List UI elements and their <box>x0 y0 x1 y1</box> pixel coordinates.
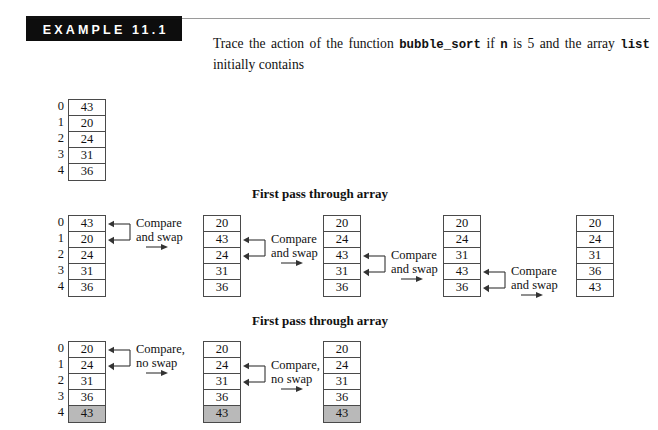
variable-list: list <box>620 38 650 52</box>
array-cell-4: 36 <box>444 280 480 296</box>
array-cell-2: 43 <box>324 248 360 264</box>
compare-bracket-icon <box>243 365 269 385</box>
array-box: 2024313643 <box>203 341 241 423</box>
next-step-arrow-icon <box>401 275 425 283</box>
description-suffix: initially contains <box>213 57 304 72</box>
next-step-arrow-icon <box>146 243 170 251</box>
array-box: 2043243136 <box>203 215 241 297</box>
array-cell-3: 36 <box>577 264 613 280</box>
array-block-pass1-step5: 2024313643 <box>576 215 614 297</box>
array-cell-4: 36 <box>204 280 240 296</box>
array-cell-3: 31 <box>204 264 240 280</box>
array-cell-2: 31 <box>444 248 480 264</box>
array-cell-4: 36 <box>69 164 105 180</box>
array-index-3: 3 <box>51 389 64 405</box>
array-cell-4: 43 <box>69 406 105 422</box>
array-cell-2: 24 <box>69 248 105 264</box>
array-box: 2024313643 <box>323 341 361 423</box>
array-block-pass2-step3: 2024313643 <box>323 341 361 423</box>
array-index-1: 1 <box>51 231 64 247</box>
array-cell-0: 20 <box>324 216 360 232</box>
compare-bracket-icon <box>483 271 509 291</box>
example-description: Trace the action of the function bubble_… <box>213 34 650 74</box>
array-index-2: 2 <box>51 247 64 263</box>
array-cell-1: 24 <box>324 232 360 248</box>
array-index-2: 2 <box>51 131 64 147</box>
array-cell-1: 20 <box>69 232 105 248</box>
array-cell-1: 24 <box>69 358 105 374</box>
next-step-arrow-icon <box>146 369 170 377</box>
array-cell-3: 43 <box>444 264 480 280</box>
array-cell-4: 36 <box>69 280 105 296</box>
array-cell-4: 43 <box>577 280 613 296</box>
pass-heading-pass1: First pass through array <box>252 186 388 202</box>
array-cell-4: 43 <box>324 406 360 422</box>
array-index-column: 01234 <box>51 99 64 179</box>
pass-heading-pass2: First pass through array <box>252 313 388 329</box>
array-cell-0: 20 <box>204 216 240 232</box>
compare-annotation-line1: Compare, <box>271 358 329 372</box>
compare-bracket-icon <box>243 239 269 259</box>
array-cell-1: 24 <box>444 232 480 248</box>
array-box: 2024313643 <box>68 341 106 423</box>
array-index-column: 01234 <box>51 341 64 421</box>
array-cell-0: 43 <box>69 100 105 116</box>
array-index-3: 3 <box>51 263 64 279</box>
array-index-1: 1 <box>51 357 64 373</box>
compare-annotation-line2: and swap <box>136 230 194 244</box>
array-cell-2: 31 <box>577 248 613 264</box>
example-badge: EXAMPLE 11.1 <box>26 19 182 41</box>
next-step-arrow-icon <box>281 385 305 393</box>
array-index-4: 4 <box>51 405 64 421</box>
array-cell-2: 31 <box>204 374 240 390</box>
array-block-pass2-step2: 2024313643 <box>203 341 241 423</box>
compare-bracket-icon <box>108 349 134 369</box>
array-cell-2: 24 <box>204 248 240 264</box>
array-block-pass2-step1: 012342024313643 <box>68 341 106 423</box>
array-index-4: 4 <box>51 163 64 179</box>
array-cell-3: 31 <box>69 148 105 164</box>
compare-bracket-icon <box>108 223 134 243</box>
array-index-1: 1 <box>51 115 64 131</box>
array-index-column: 01234 <box>51 215 64 295</box>
array-index-2: 2 <box>51 373 64 389</box>
example-badge-label: EXAMPLE 11.1 <box>39 23 168 37</box>
array-cell-0: 43 <box>69 216 105 232</box>
array-cell-0: 20 <box>69 342 105 358</box>
array-box: 2024314336 <box>443 215 481 297</box>
array-index-0: 0 <box>51 341 64 357</box>
compare-annotation-line2: no swap <box>271 372 329 386</box>
array-cell-0: 20 <box>324 342 360 358</box>
array-index-4: 4 <box>51 279 64 295</box>
array-box: 4320243136 <box>68 215 106 297</box>
array-cell-4: 43 <box>204 406 240 422</box>
array-cell-2: 31 <box>324 374 360 390</box>
compare-annotation-line2: and swap <box>271 246 329 260</box>
compare-annotation-line1: Compare <box>271 232 329 246</box>
next-step-arrow-icon <box>521 291 545 299</box>
variable-n: n <box>500 38 507 52</box>
compare-annotation-line1: Compare <box>391 248 449 262</box>
next-step-arrow-icon <box>281 259 305 267</box>
array-block-pass1-step4: 2024314336 <box>443 215 481 297</box>
array-cell-3: 36 <box>204 390 240 406</box>
array-cell-0: 20 <box>444 216 480 232</box>
array-block-pass1-step1: 012344320243136 <box>68 215 106 297</box>
compare-annotation-label: Compareand swap <box>271 232 329 260</box>
array-index-3: 3 <box>51 147 64 163</box>
compare-annotation-line1: Compare <box>136 216 194 230</box>
array-block-initial: 012344320243136 <box>68 99 106 181</box>
array-cell-3: 36 <box>69 390 105 406</box>
compare-annotation-label: Compare,no swap <box>136 342 194 370</box>
array-box: 2024433136 <box>323 215 361 297</box>
compare-annotation-label: Compareand swap <box>391 248 449 276</box>
array-box: 2024313643 <box>576 215 614 297</box>
compare-annotation-line2: no swap <box>136 356 194 370</box>
array-cell-0: 20 <box>577 216 613 232</box>
array-cell-3: 36 <box>324 390 360 406</box>
array-index-0: 0 <box>51 99 64 115</box>
compare-bracket-icon <box>363 255 389 275</box>
description-prefix: Trace the action of the function <box>213 36 399 51</box>
array-block-pass1-step3: 2024433136 <box>323 215 361 297</box>
array-cell-1: 24 <box>577 232 613 248</box>
